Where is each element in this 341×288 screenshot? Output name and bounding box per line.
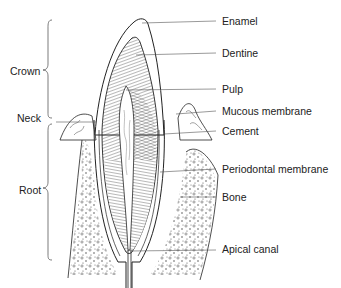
label-crown: Crown	[10, 65, 40, 77]
label-enamel: Enamel	[222, 15, 258, 27]
label-mucous-membrane: Mucous membrane	[222, 105, 312, 117]
label-bone: Bone	[222, 191, 247, 203]
label-dentine: Dentine	[222, 47, 258, 59]
gum-left	[60, 114, 96, 140]
label-apical-canal: Apical canal	[222, 243, 279, 255]
label-neck: Neck	[17, 112, 41, 124]
brace-root	[43, 124, 52, 260]
label-periodontal-membrane: Periodontal membrane	[222, 163, 328, 175]
label-pulp: Pulp	[222, 83, 243, 95]
brace-crown	[43, 20, 52, 118]
tooth-diagram	[0, 0, 341, 288]
label-cement: Cement	[222, 125, 259, 137]
gum-right	[178, 104, 212, 140]
label-root: Root	[19, 184, 41, 196]
